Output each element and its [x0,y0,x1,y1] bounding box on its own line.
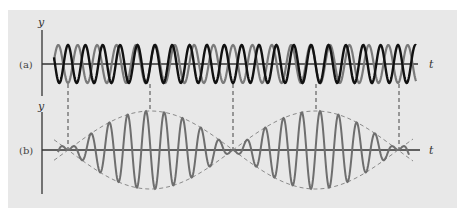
panel-label-a: (a) [19,59,33,70]
beats-figure: y (a) t y (b) t [0,0,472,223]
panel-b: y (b) t [19,100,434,194]
dashed-guide-lines [68,84,399,150]
y-axis-label-b: y [37,100,45,113]
t-axis-label-b: t [429,144,434,157]
t-axis-label-a: t [429,58,434,71]
panel-label-b: (b) [19,145,33,156]
panel-a: y (a) t [19,16,434,96]
y-axis-label-a: y [37,16,45,29]
